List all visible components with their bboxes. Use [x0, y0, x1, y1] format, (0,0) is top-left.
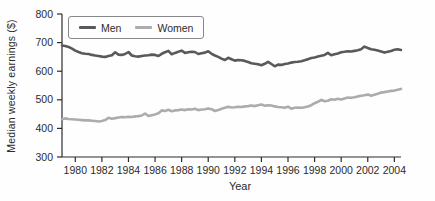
women-line-swatch	[135, 26, 152, 29]
women-line	[62, 89, 401, 122]
y-tick-label: 600	[35, 65, 53, 77]
men-line-swatch	[79, 26, 96, 29]
y-tick-label: 500	[35, 93, 53, 105]
legend: Men Women	[68, 16, 204, 39]
x-tick-label: 2000	[329, 164, 353, 176]
legend-item-men: Men	[79, 22, 121, 34]
x-tick-label: 1984	[117, 164, 141, 176]
x-tick-label: 1998	[303, 164, 327, 176]
x-tick-label: 1980	[64, 164, 88, 176]
chart-svg: 3004005006007008001980198219841986198819…	[0, 0, 435, 201]
x-tick-label: 1994	[250, 164, 274, 176]
y-tick-label: 300	[35, 151, 53, 163]
x-tick-label: 1982	[90, 164, 114, 176]
y-tick-label: 800	[35, 8, 53, 20]
earnings-line-chart-figure: 3004005006007008001980198219841986198819…	[0, 0, 435, 201]
y-tick-label: 700	[35, 36, 53, 48]
legend-label-men: Men	[101, 22, 121, 34]
legend-item-women: Women	[135, 22, 193, 34]
x-axis-title: Year	[190, 180, 290, 192]
x-tick-label: 2002	[356, 164, 380, 176]
y-axis-title: Median weekly earnings ($)	[5, 5, 19, 167]
x-tick-label: 2004	[383, 164, 407, 176]
x-tick-label: 1990	[197, 164, 221, 176]
x-tick-label: 1986	[143, 164, 167, 176]
legend-label-women: Women	[157, 22, 193, 34]
men-line	[62, 46, 401, 67]
x-tick-label: 1996	[276, 164, 300, 176]
x-tick-label: 1988	[170, 164, 194, 176]
x-tick-label: 1992	[223, 164, 247, 176]
y-tick-label: 400	[35, 122, 53, 134]
